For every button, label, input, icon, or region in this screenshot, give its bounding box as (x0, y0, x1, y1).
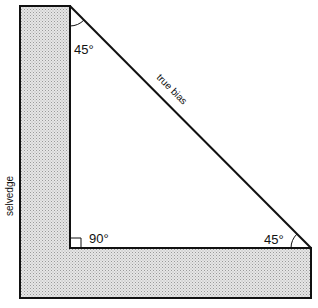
right-angle-label: 90° (89, 231, 109, 246)
bottom-right-angle-label: 45° (264, 232, 284, 247)
selvedge-strip (20, 6, 311, 298)
top-angle-arc (70, 20, 84, 26)
true-bias-label: true bias (155, 72, 190, 107)
right-angle-marker (70, 238, 81, 248)
selvedge-label: selvedge (4, 176, 15, 216)
bias-diagram: 45° 45° 90° true bias selvedge (0, 0, 318, 308)
bottom-right-angle-arc (291, 234, 297, 248)
true-bias-line (70, 6, 311, 248)
top-angle-label: 45° (74, 42, 94, 57)
